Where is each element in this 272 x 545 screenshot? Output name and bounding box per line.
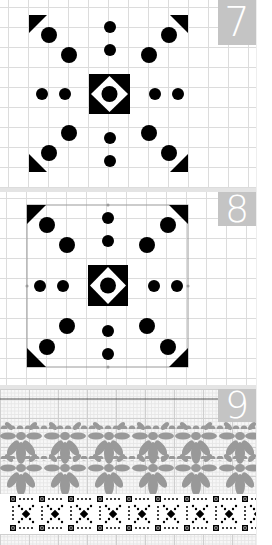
pattern-panel-8: 8 xyxy=(0,192,256,385)
pattern-number-label-8: 8 xyxy=(218,192,256,226)
pattern-number-label-7: 7 xyxy=(218,0,256,45)
page-margin xyxy=(256,0,272,545)
pattern-number-7: 7 xyxy=(224,0,249,45)
pattern-number-label-9: 9 xyxy=(218,389,256,422)
pattern-panel-7: 7 xyxy=(0,0,256,188)
pattern-number-9: 9 xyxy=(225,389,249,427)
pattern-number-8: 8 xyxy=(225,192,249,231)
pattern-panel-9: 9 xyxy=(0,389,256,545)
